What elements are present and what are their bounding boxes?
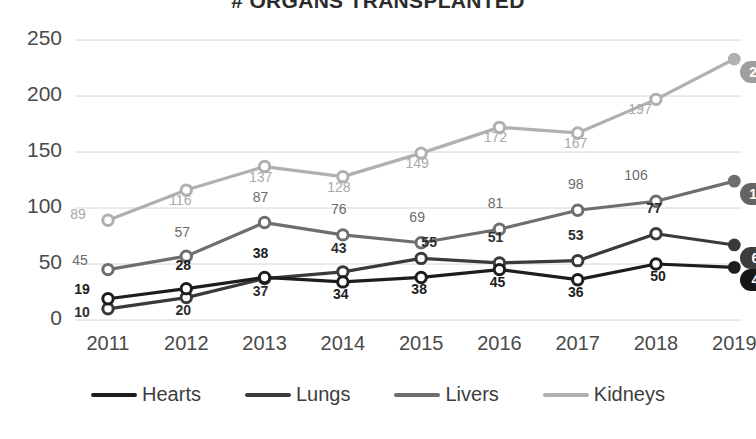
data-point-marker — [259, 217, 269, 227]
point-label: 50 — [640, 268, 676, 284]
data-point-marker — [729, 240, 740, 251]
x-axis-tick: 2015 — [376, 332, 466, 355]
point-label: 10 — [64, 304, 100, 320]
x-axis-tick: 2019 — [689, 332, 756, 355]
data-point-marker — [573, 205, 583, 215]
end-badge-lungs: 67 — [740, 247, 756, 269]
point-label: 38 — [243, 245, 279, 261]
point-label: 172 — [477, 129, 513, 145]
point-label: 77 — [636, 200, 672, 216]
point-label: 38 — [401, 281, 437, 297]
data-point-marker — [338, 230, 348, 240]
point-label: 19 — [64, 281, 100, 297]
y-axis-tick: 150 — [0, 138, 62, 162]
point-label: 89 — [60, 206, 96, 222]
point-label: 81 — [477, 195, 513, 211]
data-point-marker — [103, 215, 113, 225]
plot-area — [0, 0, 756, 439]
point-label: 57 — [164, 224, 200, 240]
x-axis-tick: 2018 — [611, 332, 701, 355]
data-point-marker — [729, 262, 740, 273]
end-badge-kidneys: 233 — [740, 61, 756, 83]
point-label: 37 — [243, 283, 279, 299]
chart-legend: HeartsLungsLiversKidneys — [0, 383, 756, 406]
point-label: 45 — [479, 274, 515, 290]
point-label: 20 — [165, 302, 201, 318]
point-label: 28 — [165, 257, 201, 273]
data-point-marker — [416, 253, 426, 263]
point-label: 98 — [558, 176, 594, 192]
point-label: 87 — [243, 189, 279, 205]
series-line-kidneys — [108, 59, 734, 220]
y-axis-tick: 250 — [0, 26, 62, 50]
y-axis-tick: 50 — [0, 250, 62, 274]
chart-container: # ORGANS TRANSPLANTED 050100150200250 20… — [0, 0, 756, 439]
legend-line-swatch — [91, 393, 137, 397]
point-label: 36 — [558, 284, 594, 300]
data-point-marker — [729, 54, 740, 65]
point-label: 128 — [321, 179, 357, 195]
point-label: 43 — [321, 240, 357, 256]
point-label: 197 — [622, 101, 658, 117]
x-axis-tick: 2016 — [454, 332, 544, 355]
point-label: 137 — [243, 169, 279, 185]
point-label: 55 — [411, 234, 447, 250]
legend-line-swatch — [245, 393, 291, 397]
data-point-marker — [103, 294, 113, 304]
data-point-marker — [259, 272, 269, 282]
point-label: 51 — [477, 229, 513, 245]
x-axis-tick: 2012 — [141, 332, 231, 355]
point-label: 149 — [399, 155, 435, 171]
point-label: 53 — [558, 227, 594, 243]
point-label: 69 — [399, 209, 435, 225]
x-axis-tick: 2011 — [63, 332, 153, 355]
x-axis-tick: 2014 — [298, 332, 388, 355]
legend-label: Lungs — [296, 383, 351, 406]
point-label: 76 — [321, 201, 357, 217]
x-axis-tick: 2017 — [533, 332, 623, 355]
legend-item-livers[interactable]: Livers — [394, 383, 498, 406]
x-axis-tick: 2013 — [220, 332, 310, 355]
legend-item-kidneys[interactable]: Kidneys — [543, 383, 665, 406]
legend-item-hearts[interactable]: Hearts — [91, 383, 201, 406]
y-axis-tick: 200 — [0, 82, 62, 106]
y-axis-tick: 100 — [0, 194, 62, 218]
data-point-marker — [651, 229, 661, 239]
point-label: 45 — [62, 252, 98, 268]
legend-item-lungs[interactable]: Lungs — [245, 383, 351, 406]
legend-label: Livers — [445, 383, 498, 406]
legend-label: Kidneys — [594, 383, 665, 406]
data-point-marker — [573, 255, 583, 265]
data-point-marker — [729, 176, 740, 187]
end-badge-livers: 124 — [740, 183, 756, 205]
legend-label: Hearts — [142, 383, 201, 406]
data-point-marker — [181, 283, 191, 293]
y-axis-tick: 0 — [0, 306, 62, 330]
legend-line-swatch — [543, 393, 589, 397]
data-point-marker — [103, 264, 113, 274]
point-label: 106 — [618, 167, 654, 183]
end-badge-hearts: 47 — [740, 269, 756, 291]
point-label: 34 — [323, 286, 359, 302]
legend-line-swatch — [394, 393, 440, 397]
point-label: 116 — [162, 192, 198, 208]
point-label: 167 — [558, 135, 594, 151]
